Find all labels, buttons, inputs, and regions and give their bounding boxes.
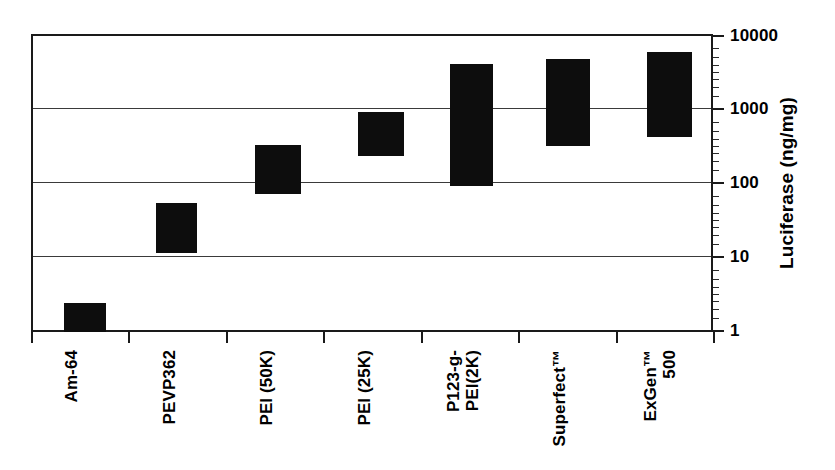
- y-minor-tick: [713, 87, 719, 88]
- x-tick: [713, 332, 715, 343]
- y-minor-tick: [713, 244, 719, 245]
- y-minor-tick: [713, 196, 719, 197]
- y-minor-tick: [713, 309, 719, 310]
- y-tick-label-1: 1: [730, 322, 740, 339]
- x-tick: [421, 332, 423, 343]
- range-box-p123-g-pei-2k: [450, 64, 493, 186]
- y-minor-tick: [713, 153, 719, 154]
- x-tick: [31, 332, 33, 343]
- range-box-pevp362: [156, 203, 197, 253]
- y-minor-tick: [713, 301, 719, 302]
- x-tick: [128, 332, 130, 343]
- y-minor-tick: [713, 96, 719, 97]
- y-major-tick-100: [713, 182, 724, 184]
- y-minor-tick: [713, 227, 719, 228]
- x-label-line: Superfect™: [550, 350, 569, 470]
- y-minor-tick: [713, 213, 719, 214]
- y-minor-tick: [713, 220, 719, 221]
- y-minor-tick: [713, 235, 719, 236]
- gridline-100: [33, 182, 711, 183]
- plot-area: [31, 34, 713, 332]
- y-minor-tick: [713, 79, 719, 80]
- y-axis-title: Luciferase (ng/mg): [772, 34, 802, 332]
- x-label-line: PEI (50K): [257, 350, 276, 470]
- y-minor-tick: [713, 170, 719, 171]
- range-box-exgen-500: [647, 52, 692, 137]
- y-minor-tick: [713, 205, 719, 206]
- y-minor-tick: [713, 287, 719, 288]
- y-minor-tick: [713, 65, 719, 66]
- y-minor-tick: [713, 131, 719, 132]
- x-label-line: PEVP362: [160, 350, 179, 470]
- x-label-line: ExGen™: [641, 350, 660, 470]
- x-label-line: P123-g-: [444, 350, 463, 470]
- y-minor-tick: [713, 318, 719, 319]
- y-minor-tick: [713, 57, 719, 58]
- y-minor-tick: [713, 146, 719, 147]
- range-box-superfect: [546, 59, 590, 146]
- gridline-1000: [33, 108, 711, 109]
- x-label-line: Am-64: [62, 350, 81, 470]
- x-label-line: PEI(2K): [463, 350, 482, 470]
- y-minor-tick: [713, 48, 719, 49]
- range-box-am-64: [64, 303, 106, 332]
- x-tick: [518, 332, 520, 343]
- x-label-line: 500: [660, 350, 679, 470]
- y-tick-label-10: 10: [730, 248, 749, 265]
- x-tick: [323, 332, 325, 343]
- x-tick: [616, 332, 618, 343]
- luciferase-expression-chart: 10000 1000 100 10 1 Luciferase (ng/mg) A…: [0, 0, 835, 470]
- y-axis: 10000 1000 100 10 1: [713, 34, 714, 332]
- y-minor-tick: [713, 294, 719, 295]
- gridline-10: [33, 256, 711, 257]
- y-tick-label-1000: 1000: [730, 100, 769, 117]
- y-minor-tick: [713, 279, 719, 280]
- y-minor-tick: [713, 122, 719, 123]
- x-label-exgen-500: ExGen™ 500: [641, 350, 791, 370]
- range-box-pei-50k: [255, 145, 301, 194]
- y-minor-tick: [713, 270, 719, 271]
- y-minor-tick: [713, 161, 719, 162]
- y-tick-label-100: 100: [730, 174, 759, 191]
- x-tick: [226, 332, 228, 343]
- range-box-pei-25k: [358, 112, 404, 156]
- y-major-tick-10000: [713, 35, 724, 37]
- y-minor-tick: [713, 139, 719, 140]
- y-minor-tick: [713, 72, 719, 73]
- x-label-line: PEI (25K): [355, 350, 374, 470]
- y-major-tick-1000: [713, 108, 724, 110]
- y-major-tick-10: [713, 256, 724, 258]
- y-axis-title-text: Luciferase (ng/mg): [776, 97, 798, 269]
